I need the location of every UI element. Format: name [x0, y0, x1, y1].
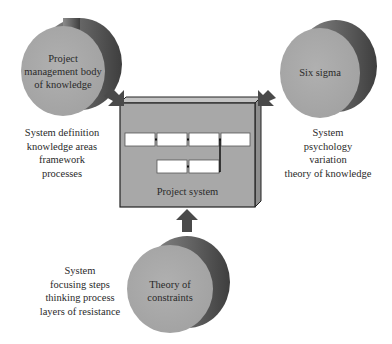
process-box: [189, 160, 219, 173]
toc-caption: System focusing steps thinking process l…: [28, 264, 132, 318]
pmbok-label: Project management body of knowledge: [20, 52, 106, 91]
process-box: [157, 160, 187, 173]
toc-caption-line: thinking process: [28, 291, 132, 305]
toc-caption-line: System: [28, 264, 132, 278]
pmbok-label-line: of knowledge: [20, 78, 106, 91]
pmbok-caption-line: framework: [12, 153, 112, 167]
six-sigma-caption-line: variation: [270, 153, 386, 167]
pmbok-caption-line: System definition: [12, 126, 112, 140]
six-sigma-caption-line: System: [270, 126, 386, 140]
project-system-label: Project system: [120, 186, 255, 197]
pmbok-caption-line: knowledge areas: [12, 140, 112, 154]
process-box: [221, 133, 250, 146]
arrow-six-sigma-to-project: [258, 90, 276, 106]
pmbok-label-line: Project: [20, 52, 106, 65]
pmbok-label-line: management body: [20, 65, 106, 78]
toc-caption-line: focusing steps: [28, 278, 132, 292]
pmbok-caption-line: processes: [12, 167, 112, 181]
toc-label-line: constraints: [127, 291, 213, 304]
toc-label-line: Theory of: [127, 278, 213, 291]
six-sigma-caption-line: theory of knowledge: [270, 167, 386, 181]
process-box: [157, 133, 187, 146]
toc-caption-line: layers of resistance: [28, 305, 132, 319]
six-sigma-label: Six sigma: [280, 66, 360, 79]
process-box: [189, 133, 219, 146]
toc-label: Theory of constraints: [127, 278, 213, 304]
pmbok-caption: System definition knowledge areas framew…: [12, 126, 112, 180]
arrow-toc-to-project: [176, 209, 198, 232]
process-box: [125, 133, 155, 146]
six-sigma-label-line: Six sigma: [280, 66, 360, 79]
six-sigma-caption-line: psychology: [270, 140, 386, 154]
six-sigma-caption: System psychology variation theory of kn…: [270, 126, 386, 180]
